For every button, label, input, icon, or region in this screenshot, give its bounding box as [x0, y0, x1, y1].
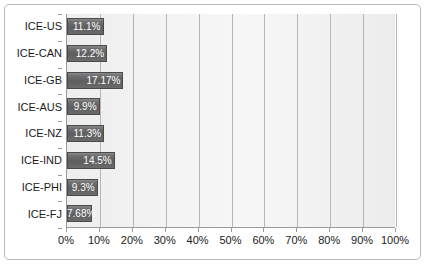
- x-tick: [296, 228, 297, 232]
- bar-row: 14.5%: [67, 148, 395, 175]
- x-axis: 0%10%20%30%40%50%60%70%80%90%100%: [66, 228, 395, 250]
- bar-series: 11.1%12.2%17.17%9.9%11.3%14.5%9.3%7.68%: [67, 14, 395, 227]
- bar-row: 7.68%: [67, 201, 395, 228]
- x-tick-label: 90%: [351, 234, 373, 246]
- category-label-ice-ind: ICE-IND: [4, 154, 62, 166]
- x-tick: [263, 228, 264, 232]
- bar-row: 12.2%: [67, 41, 395, 68]
- x-tick: [362, 228, 363, 232]
- x-tick-label: 30%: [154, 234, 176, 246]
- x-tick-label: 60%: [252, 234, 274, 246]
- bar-chart: ICE-USICE-CANICE-GBICE-AUSICE-NZICE-INDI…: [0, 0, 426, 265]
- bar-row: 11.3%: [67, 121, 395, 148]
- bar-row: 17.17%: [67, 68, 395, 95]
- x-tick: [66, 228, 67, 232]
- x-tick-label: 50%: [219, 234, 241, 246]
- category-label-ice-can: ICE-CAN: [4, 47, 62, 59]
- x-tick: [165, 228, 166, 232]
- category-tick: [58, 68, 62, 69]
- category-tick: [58, 228, 62, 229]
- x-tick: [395, 228, 396, 232]
- category-axis: ICE-USICE-CANICE-GBICE-AUSICE-NZICE-INDI…: [0, 14, 62, 228]
- x-tick-label: 80%: [318, 234, 340, 246]
- category-tick: [58, 175, 62, 176]
- x-tick-label: 100%: [381, 234, 409, 246]
- category-label-ice-us: ICE-US: [4, 20, 62, 32]
- category-label-ice-phi: ICE-PHI: [4, 181, 62, 193]
- x-tick: [99, 228, 100, 232]
- x-tick: [329, 228, 330, 232]
- category-tick: [58, 201, 62, 202]
- category-tick: [58, 41, 62, 42]
- x-tick-label: 70%: [285, 234, 307, 246]
- bar-value-label: 17.17%: [67, 72, 123, 89]
- x-tick: [198, 228, 199, 232]
- category-tick: [58, 148, 62, 149]
- bar-value-label: 11.3%: [67, 125, 104, 142]
- bar-value-label: 9.3%: [67, 179, 98, 196]
- x-tick: [231, 228, 232, 232]
- bar-row: 11.1%: [67, 14, 395, 41]
- category-label-ice-gb: ICE-GB: [4, 74, 62, 86]
- x-tick-label: 0%: [58, 234, 74, 246]
- plot-area: 11.1%12.2%17.17%9.9%11.3%14.5%9.3%7.68%: [66, 14, 395, 228]
- x-tick-label: 10%: [88, 234, 110, 246]
- x-tick-label: 40%: [187, 234, 209, 246]
- gridline: [396, 14, 397, 227]
- bar-row: 9.3%: [67, 175, 395, 202]
- category-label-ice-fj: ICE-FJ: [4, 208, 62, 220]
- bar-value-label: 12.2%: [67, 45, 107, 62]
- x-tick: [132, 228, 133, 232]
- bar-value-label: 14.5%: [67, 152, 115, 169]
- bar-value-label: 11.1%: [67, 18, 104, 35]
- bar-value-label: 7.68%: [67, 205, 92, 222]
- category-tick: [58, 14, 62, 15]
- x-tick-label: 20%: [121, 234, 143, 246]
- category-tick: [58, 121, 62, 122]
- category-label-ice-aus: ICE-AUS: [4, 101, 62, 113]
- bar-row: 9.9%: [67, 94, 395, 121]
- category-tick: [58, 94, 62, 95]
- bar-value-label: 9.9%: [67, 98, 100, 115]
- category-label-ice-nz: ICE-NZ: [4, 127, 62, 139]
